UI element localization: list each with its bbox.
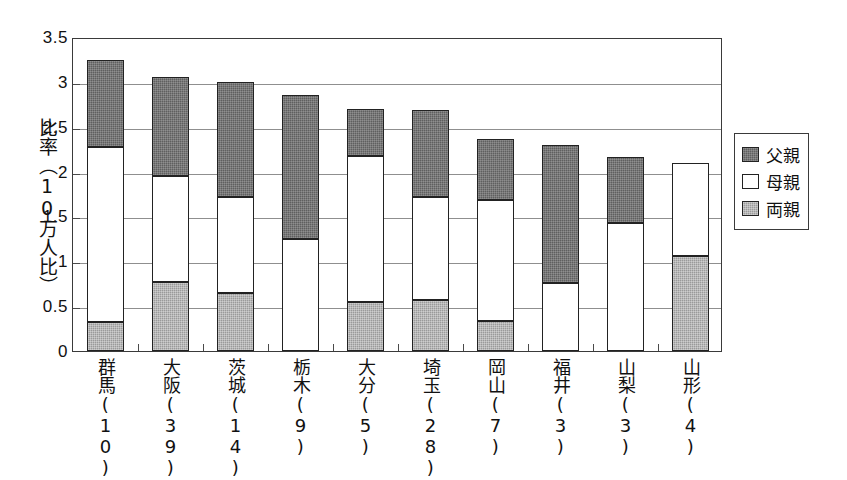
bar[interactable] xyxy=(412,37,449,351)
bar-segment-father[interactable] xyxy=(152,77,189,176)
x-axis-label-text: 山梨(3) xyxy=(615,358,634,457)
x-axis-label-text: 岡山(7) xyxy=(485,358,504,457)
x-axis-label-text: 群馬(10) xyxy=(95,358,114,478)
bar-segment-mother[interactable] xyxy=(477,200,514,320)
x-axis-category-labels: 群馬(10)大阪(39)茨城(14)栃木(9)大分(5)埼玉(28)岡山(7)福… xyxy=(72,358,722,458)
bar-segment-father[interactable] xyxy=(217,82,254,197)
mother-swatch xyxy=(742,174,759,189)
bar-segment-father[interactable] xyxy=(347,109,384,157)
bar-segment-mother[interactable] xyxy=(87,147,124,322)
x-axis-label-text: 埼玉(28) xyxy=(420,358,439,478)
bar[interactable] xyxy=(217,37,254,351)
father-swatch xyxy=(742,147,759,162)
y-tick-label: 0 xyxy=(58,342,68,362)
legend-item[interactable]: 父親 xyxy=(742,141,800,168)
bar-segment-mother[interactable] xyxy=(217,197,254,293)
bar-segment-both-parents[interactable] xyxy=(87,322,124,351)
legend-item-label: 両親 xyxy=(766,196,800,221)
x-axis-label: 大阪(39) xyxy=(150,358,190,480)
bar-segment-both-parents[interactable] xyxy=(347,302,384,351)
x-axis-label: 埼玉(28) xyxy=(410,358,450,480)
chart-legend: 父親母親両親 xyxy=(734,133,809,230)
x-axis-label: 群馬(10) xyxy=(85,358,125,480)
bar[interactable] xyxy=(87,37,124,351)
bar[interactable] xyxy=(347,37,384,351)
bar-segment-mother[interactable] xyxy=(152,176,189,282)
y-tick-label: 2.5 xyxy=(43,118,68,138)
legend-item[interactable]: 両親 xyxy=(742,195,800,222)
x-axis-label: 大分(5) xyxy=(345,358,385,461)
both-parents-swatch xyxy=(742,201,759,216)
y-tick-label: 1.5 xyxy=(43,207,68,227)
bar-segment-both-parents[interactable] xyxy=(477,321,514,352)
x-axis-label: 福井(3) xyxy=(540,358,580,461)
x-axis-label: 山梨(3) xyxy=(605,358,645,461)
bar-segment-father[interactable] xyxy=(412,110,449,197)
legend-item-label: 母親 xyxy=(766,169,800,194)
bar-segment-father[interactable] xyxy=(87,60,124,147)
bar[interactable] xyxy=(282,37,319,351)
bar[interactable] xyxy=(542,37,579,351)
bar-segment-both-parents[interactable] xyxy=(412,300,449,351)
x-axis-label-text: 栃木(9) xyxy=(290,358,309,457)
bar-segment-father[interactable] xyxy=(607,157,644,222)
bar-segment-father[interactable] xyxy=(282,95,319,239)
x-axis-label: 山形(4) xyxy=(670,358,710,461)
bar-segment-mother[interactable] xyxy=(412,197,449,300)
x-axis-label-text: 大阪(39) xyxy=(160,358,179,478)
x-axis-label-text: 大分(5) xyxy=(355,358,374,457)
bar-series-group xyxy=(73,39,721,351)
x-axis-label: 茨城(14) xyxy=(215,358,255,480)
legend-item-label: 父親 xyxy=(766,142,800,167)
bar-segment-father[interactable] xyxy=(477,139,514,200)
y-axis-tick-labels: 00.511.522.533.5 xyxy=(30,38,68,352)
bar-segment-both-parents[interactable] xyxy=(217,293,254,351)
y-tick-label: 0.5 xyxy=(43,297,68,317)
bar-segment-mother[interactable] xyxy=(542,283,579,351)
bar-segment-father[interactable] xyxy=(542,145,579,283)
bar-segment-both-parents[interactable] xyxy=(672,256,709,351)
bar-segment-mother[interactable] xyxy=(282,239,319,351)
bar-segment-both-parents[interactable] xyxy=(152,282,189,351)
x-axis-label-text: 山形(4) xyxy=(680,358,699,457)
plot-area xyxy=(72,38,722,352)
bar[interactable] xyxy=(607,37,644,351)
bar-segment-mother[interactable] xyxy=(607,223,644,351)
legend-item[interactable]: 母親 xyxy=(742,168,800,195)
x-axis-label-text: 茨城(14) xyxy=(225,358,244,478)
y-tick-label: 1 xyxy=(58,252,68,272)
bar[interactable] xyxy=(477,37,514,351)
bar[interactable] xyxy=(672,37,709,351)
bar-segment-mother[interactable] xyxy=(672,163,709,256)
x-axis-label-text: 福井(3) xyxy=(550,358,569,457)
y-tick-label: 3.5 xyxy=(43,28,68,48)
x-axis-label: 岡山(7) xyxy=(475,358,515,461)
y-tick-label: 2 xyxy=(58,163,68,183)
y-tick-label: 3 xyxy=(58,73,68,93)
x-axis-label: 栃木(9) xyxy=(280,358,320,461)
bar[interactable] xyxy=(152,37,189,351)
bar-segment-mother[interactable] xyxy=(347,156,384,301)
